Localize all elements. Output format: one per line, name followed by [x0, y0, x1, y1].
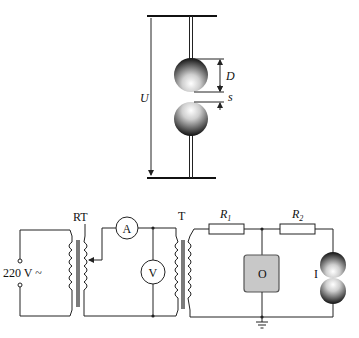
- upper-sphere: [174, 58, 208, 92]
- oscilloscope: O: [244, 255, 279, 292]
- resistor-r2: [280, 224, 315, 234]
- terminal-top: [18, 259, 22, 263]
- resistor-r1: [209, 224, 244, 234]
- lower-sphere: [174, 102, 208, 136]
- voltmeter: V: [141, 260, 165, 284]
- regulating-transformer: [69, 224, 102, 316]
- voltmeter-label: V: [149, 266, 158, 280]
- resistor-r2-label: R2: [291, 207, 303, 223]
- upper-rod: [190, 16, 193, 60]
- source-voltage-label: 220 V ~: [3, 266, 42, 280]
- test-circuit: 220 V ~ RT A V: [3, 207, 346, 328]
- test-sphere-gap: [320, 252, 346, 304]
- ammeter-label: A: [123, 222, 132, 236]
- hv-transformer-label: T: [178, 209, 186, 223]
- voltage-label: U: [140, 91, 150, 105]
- terminal-bottom: [18, 283, 22, 287]
- oscilloscope-label: O: [258, 267, 267, 281]
- diameter-label: D: [225, 69, 235, 83]
- ammeter: A: [116, 217, 138, 239]
- resistor-r1-label: R1: [219, 207, 231, 223]
- regulating-transformer-label: RT: [73, 210, 88, 224]
- sphere-gap-diagram: U D s 220 V ~: [0, 0, 359, 338]
- sphere-gap-assembly: U D s: [140, 16, 235, 178]
- ground-icon: [256, 317, 268, 328]
- gap-label: s: [228, 90, 233, 104]
- hv-transformer: [175, 228, 194, 317]
- lower-rod: [190, 134, 193, 178]
- sphere-gap-label: I: [314, 267, 318, 281]
